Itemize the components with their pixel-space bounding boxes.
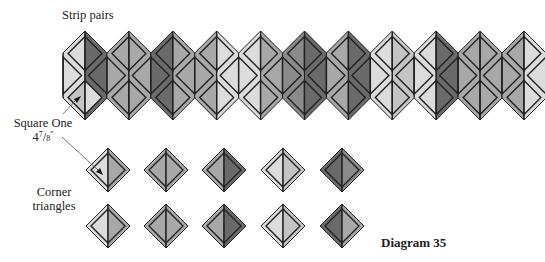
square-left-half xyxy=(144,204,166,248)
square-left-half xyxy=(144,148,166,192)
square-right-half xyxy=(108,204,130,248)
corner-triangle-square xyxy=(261,204,305,248)
square-right-half xyxy=(224,148,246,192)
corner-triangles-line2: triangles xyxy=(24,199,84,213)
size-unit: " xyxy=(50,130,53,139)
diagram-title: Diagram 35 xyxy=(381,236,446,250)
square-one-title: Square One xyxy=(8,116,78,130)
strip-column xyxy=(283,31,327,120)
corner-triangle-squares xyxy=(86,148,364,248)
square-left-half xyxy=(320,204,342,248)
strip-column xyxy=(414,31,458,120)
strip-column xyxy=(370,31,414,120)
square-one-label: Square One 47/8" xyxy=(8,116,78,144)
square-right-half xyxy=(342,204,364,248)
square-left-half xyxy=(261,148,283,192)
strip-column xyxy=(107,31,151,120)
square-right-half xyxy=(166,204,188,248)
square-left-half xyxy=(202,148,224,192)
square-left-half xyxy=(86,204,108,248)
square-one-size: 47/8" xyxy=(8,130,78,144)
strip-column xyxy=(502,31,545,120)
corner-triangles-line1: Corner xyxy=(24,185,84,199)
square-left-half xyxy=(320,148,342,192)
strip-column xyxy=(239,31,283,120)
strip-pairs-label: Strip pairs xyxy=(62,8,114,22)
corner-triangle-square xyxy=(320,148,364,192)
square-left-half xyxy=(261,204,283,248)
square-right-half xyxy=(166,148,188,192)
square-right-half xyxy=(224,204,246,248)
diagram-35-figure xyxy=(0,0,545,262)
size-numerator: 7 xyxy=(39,130,43,139)
corner-triangle-square xyxy=(202,204,246,248)
strip-column xyxy=(151,31,195,120)
corner-triangle-square xyxy=(202,148,246,192)
square-right-half xyxy=(342,148,364,192)
corner-triangle-square xyxy=(86,148,130,192)
corner-triangle-square xyxy=(86,204,130,248)
corner-triangle-square xyxy=(144,204,188,248)
corner-triangle-square xyxy=(261,148,305,192)
square-right-half xyxy=(108,148,130,192)
strip-column xyxy=(458,31,502,120)
strip-column xyxy=(326,31,370,120)
square-left-half xyxy=(86,148,108,192)
square-left-half xyxy=(202,204,224,248)
square-right-half xyxy=(283,204,305,248)
strip-column xyxy=(195,31,239,120)
corner-triangle-square xyxy=(320,204,364,248)
strip-pairs-band xyxy=(63,31,545,120)
corner-triangle-square xyxy=(144,148,188,192)
square-right-half xyxy=(283,148,305,192)
corner-triangles-label: Corner triangles xyxy=(24,185,84,213)
